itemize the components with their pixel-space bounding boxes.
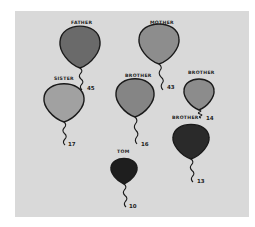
balloon-string xyxy=(134,117,138,144)
balloon-age: 43 xyxy=(167,84,175,90)
balloon-body xyxy=(116,79,154,117)
balloon-age: 17 xyxy=(68,141,76,147)
balloon-string xyxy=(123,184,127,207)
balloon-body xyxy=(173,124,209,159)
balloon-brother-4: BROTHER14 xyxy=(184,70,215,121)
balloon-string xyxy=(63,122,66,145)
balloon-label: MOTHER xyxy=(150,20,174,25)
balloon-body xyxy=(44,84,84,122)
balloon-drawing: FATHER45MOTHER43SISTER17BROTHER16BROTHER… xyxy=(0,0,255,227)
balloon-label: BROTHER xyxy=(172,115,199,120)
balloon-body xyxy=(60,26,100,68)
balloon-label: SISTER xyxy=(54,76,74,81)
balloon-age: 13 xyxy=(197,178,205,184)
balloon-label: BROTHER xyxy=(188,70,215,75)
balloon-brother-5: BROTHER13 xyxy=(172,115,209,184)
balloon-string xyxy=(190,159,194,182)
balloon-body xyxy=(139,24,179,64)
balloon-string xyxy=(198,110,202,118)
balloon-body xyxy=(111,158,137,184)
balloon-age: 16 xyxy=(141,141,149,147)
balloon-label: FATHER xyxy=(71,20,92,25)
balloon-string xyxy=(159,64,163,90)
balloon-age: 45 xyxy=(87,85,95,91)
balloon-label: TOM xyxy=(117,149,130,154)
balloon-sister-2: SISTER17 xyxy=(44,76,84,147)
balloon-age: 14 xyxy=(206,115,214,121)
balloon-label: BROTHER xyxy=(125,73,152,78)
balloon-tom-6: TOM10 xyxy=(111,149,137,209)
balloon-mother-1: MOTHER43 xyxy=(139,20,179,90)
balloon-age: 10 xyxy=(129,203,137,209)
balloon-brother-3: BROTHER16 xyxy=(116,73,154,147)
balloon-body xyxy=(184,79,214,110)
balloon-string xyxy=(79,68,83,90)
